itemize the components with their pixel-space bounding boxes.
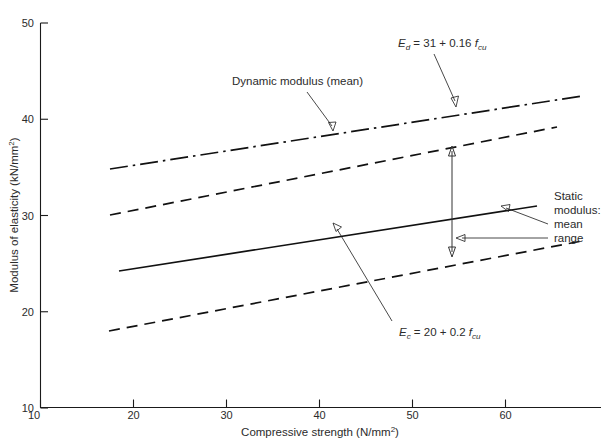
y-axis-title-main: Modulus of elasticity (kN/mm [8, 146, 20, 293]
y-tick-label-50: 50 [22, 17, 34, 29]
series-static-lower-range [109, 241, 582, 331]
equation-dynamic-arrowhead [451, 96, 459, 107]
static-modulus-label-line3: mean [554, 218, 583, 230]
annotation-equation-static: Ec = 20 + 0.2 fcu [333, 223, 481, 341]
eq-dynamic-var-sub: cu [478, 43, 487, 52]
chart-figure: 50 40 30 20 10 10 20 30 40 50 60 Compres… [0, 0, 609, 442]
equation-dynamic-modulus: Ed = 31 + 0.16 fcu [398, 37, 487, 52]
y-tick-label-20: 20 [22, 306, 34, 318]
equation-static-leader-line [337, 229, 392, 321]
y-axis-ticks: 50 40 30 20 10 [22, 17, 48, 414]
static-mean-leader-line [506, 208, 548, 224]
annotation-equation-dynamic: Ed = 31 + 0.16 fcu [398, 37, 487, 107]
y-axis-title: Modulus of elasticity (kN/mm2) [7, 137, 20, 292]
series-static-modulus-mean [119, 206, 537, 271]
equation-dynamic-leader-line [434, 54, 455, 101]
annotation-static-modulus: Static modulus: mean range [456, 190, 601, 244]
x-tick-label-30: 30 [220, 409, 232, 421]
equation-static-modulus: Ec = 20 + 0.2 fcu [399, 326, 481, 341]
dynamic-modulus-leader-line [307, 92, 332, 126]
x-tick-label-60: 60 [499, 409, 511, 421]
x-tick-label-50: 50 [406, 409, 418, 421]
data-series-group [109, 96, 582, 331]
x-tick-label-40: 40 [313, 409, 325, 421]
eq-static-body: = 20 + 0.2 [411, 326, 469, 338]
annotation-dynamic-modulus: Dynamic modulus (mean) [232, 75, 363, 131]
x-tick-label-20: 20 [127, 409, 139, 421]
eq-static-var-sub: cu [472, 332, 481, 341]
series-dynamic-modulus-mean [110, 96, 582, 169]
y-axis-title-tail: ) [8, 137, 20, 141]
static-modulus-label-line4: range [554, 232, 583, 244]
range-double-arrow [449, 146, 456, 257]
eq-dynamic-body: = 31 + 0.16 [410, 37, 475, 49]
x-axis-ticks: 10 20 30 40 50 60 [28, 400, 512, 422]
x-axis-title: Compressive strength (N/mm2) [241, 425, 399, 438]
chart-canvas: 50 40 30 20 10 10 20 30 40 50 60 Compres… [0, 0, 609, 442]
y-tick-label-40: 40 [22, 113, 34, 125]
equation-static-arrowhead [333, 223, 342, 232]
series-static-upper-range [110, 127, 557, 215]
dynamic-modulus-label: Dynamic modulus (mean) [232, 75, 363, 87]
x-axis-title-main: Compressive strength (N/mm [241, 426, 391, 438]
x-axis-title-tail: ) [395, 426, 399, 438]
static-modulus-label-line1: Static [554, 190, 583, 202]
static-modulus-label-line2: modulus: [554, 204, 601, 216]
y-tick-label-30: 30 [22, 210, 34, 222]
x-tick-label-10: 10 [28, 409, 40, 421]
